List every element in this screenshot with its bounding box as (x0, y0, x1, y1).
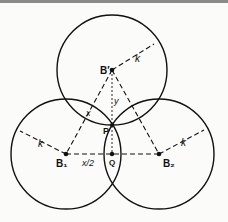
label-k-right: k (181, 137, 187, 148)
label-q: Q (109, 158, 115, 167)
label-k-top: k (135, 53, 141, 64)
label-x: x (85, 108, 91, 118)
point-p (110, 123, 114, 127)
label-y: y (113, 96, 119, 106)
label-b2: B₂ (163, 158, 175, 169)
label-x-half: x/2 (81, 158, 94, 168)
point-b2 (157, 152, 162, 157)
point-bprime (110, 68, 115, 73)
label-b-prime: B′ (100, 65, 110, 76)
three-circle-diagram: B′ B₁ B₂ P Q k k k x y x/2 (0, 0, 228, 222)
point-b1 (64, 152, 69, 157)
label-b1: B₁ (56, 158, 67, 169)
radius-left (20, 131, 66, 154)
point-q (110, 152, 114, 156)
label-p: P (103, 126, 109, 136)
diagram-canvas: B′ B₁ B₂ P Q k k k x y x/2 (0, 0, 228, 222)
label-k-left: k (38, 138, 44, 149)
radius-top (112, 44, 154, 70)
